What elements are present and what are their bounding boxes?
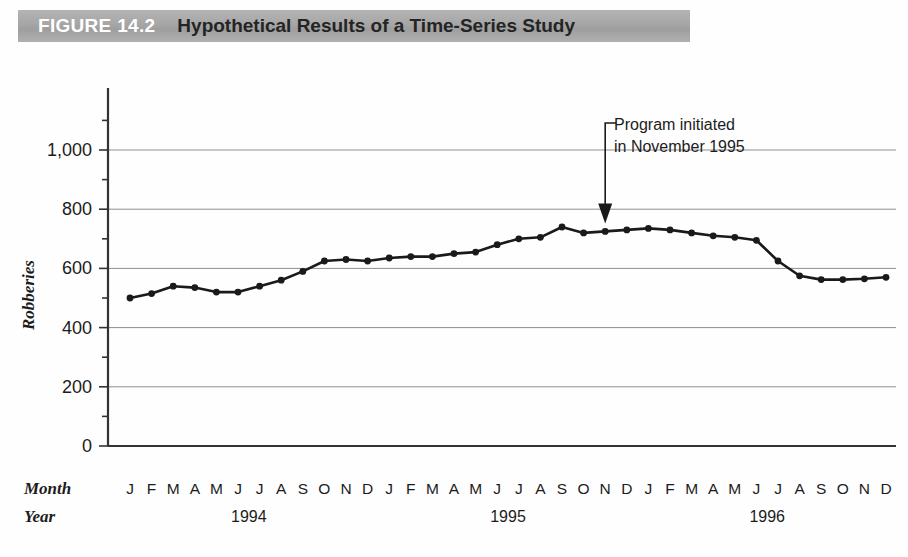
data-point xyxy=(429,253,436,260)
month-tick-label: S xyxy=(816,480,826,497)
y-axis-tick-label: 200 xyxy=(62,377,92,397)
month-tick-label: J xyxy=(753,480,761,497)
data-point xyxy=(602,228,609,235)
robberies-series xyxy=(127,224,890,302)
data-point xyxy=(645,225,652,232)
data-point xyxy=(667,227,674,234)
y-axis-tick-label: 800 xyxy=(62,199,92,219)
month-tick-label: A xyxy=(794,480,805,497)
month-tick-label: A xyxy=(190,480,201,497)
data-point xyxy=(256,283,263,290)
data-point xyxy=(861,275,868,282)
y-axis-tick-label: 0 xyxy=(82,436,92,456)
data-point xyxy=(386,255,393,262)
year-tick-label: 1994 xyxy=(231,508,267,525)
figure-container: FIGURE 14.2 Hypothetical Results of a Ti… xyxy=(0,0,908,557)
month-tick-label: O xyxy=(318,480,330,497)
robberies-line xyxy=(130,227,886,298)
data-point xyxy=(451,250,458,257)
data-point xyxy=(580,230,587,237)
month-tick-label: M xyxy=(469,480,482,497)
year-tick-labels: 199419951996 xyxy=(231,508,785,525)
data-point xyxy=(191,284,198,291)
month-tick-label: M xyxy=(210,480,223,497)
y-axis-title: Robberies xyxy=(19,260,38,331)
data-point xyxy=(299,268,306,275)
gridlines-group xyxy=(108,150,896,387)
y-axis-tick-labels: 02004006008001,000 xyxy=(47,140,92,456)
month-row-label: Month xyxy=(23,479,71,498)
program-initiated-annotation: Program initiated in November 1995 xyxy=(598,116,745,223)
month-tick-label: J xyxy=(234,480,242,497)
data-point xyxy=(710,232,717,239)
annotation-leader-line xyxy=(605,123,616,209)
data-point xyxy=(278,277,285,284)
data-point xyxy=(213,289,220,296)
data-point xyxy=(235,289,242,296)
data-point xyxy=(170,283,177,290)
data-point xyxy=(559,224,566,231)
month-tick-label: M xyxy=(167,480,180,497)
month-tick-label: A xyxy=(535,480,546,497)
annotation-line-1: Program initiated xyxy=(614,116,735,133)
data-point xyxy=(494,241,501,248)
month-tick-label: D xyxy=(362,480,373,497)
data-point xyxy=(796,272,803,279)
data-point xyxy=(127,295,134,302)
y-axis-tick-label: 400 xyxy=(62,318,92,338)
month-tick-label: J xyxy=(126,480,134,497)
robberies-data-points xyxy=(127,224,890,302)
data-point xyxy=(818,276,825,283)
month-tick-labels: JFMAMJJASONDJFMAMJJASONDJFMAMJJASOND xyxy=(126,480,891,497)
month-tick-label: J xyxy=(493,480,501,497)
data-point xyxy=(343,256,350,263)
month-tick-label: M xyxy=(426,480,439,497)
year-row-label: Year xyxy=(24,507,56,526)
month-tick-label: F xyxy=(406,480,415,497)
annotation-line-2: in November 1995 xyxy=(614,138,745,155)
month-tick-label: O xyxy=(837,480,849,497)
data-point xyxy=(731,234,738,241)
month-tick-label: J xyxy=(645,480,653,497)
month-tick-label: M xyxy=(685,480,698,497)
month-tick-label: N xyxy=(859,480,870,497)
data-point xyxy=(537,234,544,241)
y-axis-tick-label: 1,000 xyxy=(47,140,92,160)
month-tick-label: A xyxy=(708,480,719,497)
data-point xyxy=(775,258,782,265)
year-tick-label: 1995 xyxy=(490,508,526,525)
annotation-arrowhead-icon xyxy=(598,203,612,223)
month-tick-label: F xyxy=(665,480,674,497)
y-axis-ticks-group xyxy=(99,120,108,446)
data-point xyxy=(364,258,371,265)
month-tick-label: F xyxy=(147,480,156,497)
data-point xyxy=(839,276,846,283)
data-point xyxy=(753,237,760,244)
year-tick-label: 1996 xyxy=(749,508,785,525)
month-tick-label: M xyxy=(728,480,741,497)
data-point xyxy=(688,230,695,237)
data-point xyxy=(407,253,414,260)
y-axis-tick-label: 600 xyxy=(62,258,92,278)
month-tick-label: S xyxy=(298,480,308,497)
data-point xyxy=(472,249,479,256)
month-tick-label: J xyxy=(256,480,264,497)
month-tick-label: O xyxy=(578,480,590,497)
month-tick-label: D xyxy=(880,480,891,497)
month-tick-label: A xyxy=(276,480,287,497)
data-point xyxy=(321,258,328,265)
month-tick-label: J xyxy=(385,480,393,497)
month-tick-label: S xyxy=(557,480,567,497)
month-tick-label: N xyxy=(600,480,611,497)
month-tick-label: J xyxy=(515,480,523,497)
data-point xyxy=(623,227,630,234)
month-tick-label: A xyxy=(449,480,460,497)
data-point xyxy=(883,274,890,281)
month-tick-label: J xyxy=(774,480,782,497)
month-tick-label: N xyxy=(340,480,351,497)
month-tick-label: D xyxy=(621,480,632,497)
data-point xyxy=(515,235,522,242)
data-point xyxy=(148,290,155,297)
time-series-chart: 02004006008001,000 Robberies Program ini… xyxy=(0,0,908,557)
